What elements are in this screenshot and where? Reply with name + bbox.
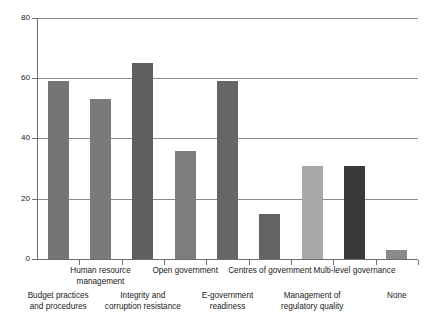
bar [175, 151, 196, 259]
category-label: Multi-level governance [307, 266, 403, 277]
category-label-line: Centres of government [222, 266, 318, 277]
category-label-line: regulatory quality [264, 302, 360, 313]
category-label-line: E-government [180, 291, 276, 302]
gridline-60 [37, 78, 418, 79]
category-label: Open government [137, 266, 233, 277]
category-label-line: Budget practices [10, 291, 106, 302]
category-label: E-governmentreadiness [180, 291, 276, 312]
category-label: Centres of government [222, 266, 318, 277]
y-tick-label-40: 40 [2, 134, 30, 142]
y-tick-label-0: 0 [2, 255, 30, 263]
category-label: Management ofregulatory quality [264, 291, 360, 312]
y-tick-label-80: 80 [2, 14, 30, 22]
category-label-line: Human resource [53, 266, 149, 277]
y-tick-mark-80 [32, 18, 37, 19]
x-tick-mark [206, 260, 207, 265]
x-tick-mark [418, 260, 419, 265]
category-label: Integrity andcorruption resistance [95, 291, 191, 312]
category-label-line: management [53, 277, 149, 288]
bar [386, 250, 407, 259]
gridline-80 [37, 18, 418, 19]
category-label: Budget practicesand procedures [10, 291, 106, 312]
x-tick-mark [376, 260, 377, 265]
x-tick-mark [249, 260, 250, 265]
x-tick-mark [291, 260, 292, 265]
category-label-line: None [349, 291, 429, 302]
bar [302, 166, 323, 259]
bar-chart: 80 60 40 20 0 Budget practicesand proced… [0, 0, 429, 320]
category-label-line: corruption resistance [95, 302, 191, 313]
bar [217, 81, 238, 259]
category-label-line: Multi-level governance [307, 266, 403, 277]
category-label: Human resourcemanagement [53, 266, 149, 287]
bar [344, 166, 365, 259]
y-tick-label-20: 20 [2, 195, 30, 203]
bar [132, 63, 153, 259]
x-tick-mark [79, 260, 80, 265]
y-tick-mark-0 [32, 259, 37, 260]
y-tick-mark-40 [32, 138, 37, 139]
y-tick-mark-60 [32, 78, 37, 79]
category-label-line: Open government [137, 266, 233, 277]
category-label: None [349, 291, 429, 302]
category-label-line: Management of [264, 291, 360, 302]
y-tick-label-60: 60 [2, 74, 30, 82]
category-label-line: and procedures [10, 302, 106, 313]
x-tick-mark [164, 260, 165, 265]
bar [48, 81, 69, 259]
x-axis-line [37, 259, 418, 260]
y-tick-mark-20 [32, 199, 37, 200]
x-tick-mark [122, 260, 123, 265]
bar [90, 99, 111, 259]
y-axis-line [37, 18, 38, 259]
category-label-line: readiness [180, 302, 276, 313]
x-tick-mark [333, 260, 334, 265]
category-label-line: Integrity and [95, 291, 191, 302]
bar [259, 214, 280, 259]
